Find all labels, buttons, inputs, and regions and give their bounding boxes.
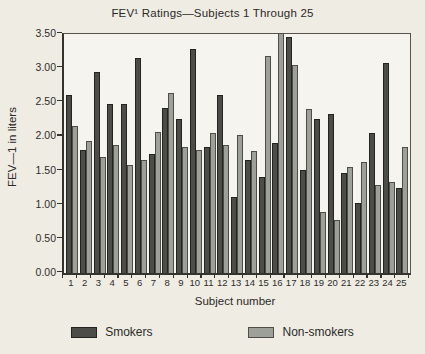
nonsmoker-bar-9 xyxy=(182,147,188,273)
x-axis-title: Subject number xyxy=(62,295,408,307)
y-tick-mark xyxy=(57,169,62,170)
y-tick-label-1.50: 1.50 xyxy=(20,164,56,176)
nonsmoker-bar-22 xyxy=(361,162,367,273)
nonsmokers-swatch-icon xyxy=(248,327,274,338)
x-label-subject-14: 14 xyxy=(243,277,257,288)
x-label-subject-9: 9 xyxy=(174,277,188,288)
x-label-subject-16: 16 xyxy=(270,277,284,288)
nonsmoker-bar-4 xyxy=(113,145,119,273)
nonsmoker-bar-25 xyxy=(402,147,408,273)
legend-entry-smokers: Smokers xyxy=(71,325,152,339)
nonsmoker-bar-16 xyxy=(278,33,284,273)
bar-pair-subject-17 xyxy=(286,37,300,273)
bar-pair-subject-10 xyxy=(190,49,204,273)
x-label-subject-22: 22 xyxy=(353,277,367,288)
legend-entry-nonsmokers: Non-smokers xyxy=(248,325,353,339)
y-tick-mark xyxy=(57,100,62,101)
bar-pair-subject-23 xyxy=(369,133,383,273)
bar-pair-subject-11 xyxy=(204,133,218,273)
nonsmoker-bar-19 xyxy=(320,212,326,273)
bars-container xyxy=(64,34,410,273)
x-axis-labels: 1234567891011121314151617181920212223242… xyxy=(62,277,408,288)
bar-pair-subject-20 xyxy=(328,114,342,273)
bar-pair-subject-16 xyxy=(272,33,286,273)
nonsmoker-bar-20 xyxy=(334,220,340,273)
x-label-subject-12: 12 xyxy=(215,277,229,288)
nonsmoker-bar-24 xyxy=(389,182,395,273)
y-tick-mark xyxy=(57,237,62,238)
nonsmoker-bar-17 xyxy=(292,65,298,273)
bar-pair-subject-2 xyxy=(80,141,94,273)
x-label-subject-21: 21 xyxy=(339,277,353,288)
bar-pair-subject-12 xyxy=(217,95,231,273)
y-tick-mark xyxy=(57,203,62,204)
x-label-subject-23: 23 xyxy=(367,277,381,288)
y-tick-mark xyxy=(57,32,62,33)
x-label-subject-10: 10 xyxy=(188,277,202,288)
nonsmoker-bar-15 xyxy=(265,56,271,273)
nonsmoker-bar-18 xyxy=(306,109,312,273)
x-tick-mark xyxy=(408,274,409,278)
bar-pair-subject-24 xyxy=(383,63,397,273)
bar-pair-subject-19 xyxy=(314,119,328,273)
x-label-subject-8: 8 xyxy=(160,277,174,288)
x-label-subject-13: 13 xyxy=(229,277,243,288)
smokers-legend-label: Smokers xyxy=(105,325,152,339)
nonsmoker-bar-3 xyxy=(100,157,106,273)
x-label-subject-7: 7 xyxy=(147,277,161,288)
x-label-subject-6: 6 xyxy=(133,277,147,288)
y-tick-label-2.00: 2.00 xyxy=(20,129,56,141)
nonsmoker-bar-23 xyxy=(375,185,381,273)
nonsmoker-bar-6 xyxy=(141,160,147,273)
x-label-subject-11: 11 xyxy=(202,277,216,288)
y-tick-label-1.00: 1.00 xyxy=(20,198,56,210)
x-label-subject-17: 17 xyxy=(284,277,298,288)
bar-pair-subject-21 xyxy=(341,167,355,273)
bar-pair-subject-7 xyxy=(149,132,163,273)
nonsmoker-bar-8 xyxy=(168,93,174,273)
x-label-subject-2: 2 xyxy=(78,277,92,288)
y-tick-mark xyxy=(57,66,62,67)
x-label-subject-25: 25 xyxy=(394,277,408,288)
bar-pair-subject-25 xyxy=(396,147,410,273)
x-label-subject-1: 1 xyxy=(64,277,78,288)
y-tick-mark xyxy=(57,271,62,272)
plot-area xyxy=(62,33,411,275)
y-tick-label-0.00: 0.00 xyxy=(20,266,56,278)
nonsmoker-bar-2 xyxy=(86,141,92,273)
y-tick-label-2.50: 2.50 xyxy=(20,95,56,107)
nonsmoker-bar-7 xyxy=(155,132,161,273)
nonsmoker-bar-10 xyxy=(196,150,202,273)
nonsmokers-legend-label: Non-smokers xyxy=(282,325,353,339)
bar-pair-subject-13 xyxy=(231,135,245,273)
bar-pair-subject-8 xyxy=(162,93,176,273)
nonsmoker-bar-13 xyxy=(237,135,243,273)
x-label-subject-4: 4 xyxy=(105,277,119,288)
nonsmoker-bar-21 xyxy=(347,167,353,273)
x-label-subject-15: 15 xyxy=(257,277,271,288)
x-label-subject-3: 3 xyxy=(92,277,106,288)
bar-pair-subject-22 xyxy=(355,162,369,273)
bar-pair-subject-18 xyxy=(300,109,314,273)
y-tick-label-3.00: 3.00 xyxy=(20,61,56,73)
x-label-subject-18: 18 xyxy=(298,277,312,288)
x-label-subject-20: 20 xyxy=(326,277,340,288)
bar-pair-subject-9 xyxy=(176,119,190,273)
x-label-subject-5: 5 xyxy=(119,277,133,288)
y-tick-label-3.50: 3.50 xyxy=(20,27,56,39)
nonsmoker-bar-12 xyxy=(223,145,229,273)
bar-pair-subject-3 xyxy=(94,72,108,273)
bar-pair-subject-1 xyxy=(66,95,80,273)
bar-pair-subject-6 xyxy=(135,58,149,273)
legend: Smokers Non-smokers xyxy=(0,325,425,339)
y-tick-mark xyxy=(57,134,62,135)
y-tick-label-0.50: 0.50 xyxy=(20,232,56,244)
nonsmoker-bar-5 xyxy=(127,165,133,273)
x-label-subject-24: 24 xyxy=(381,277,395,288)
smokers-swatch-icon xyxy=(71,327,97,338)
nonsmoker-bar-1 xyxy=(72,126,78,273)
x-label-subject-19: 19 xyxy=(312,277,326,288)
bar-pair-subject-5 xyxy=(121,104,135,273)
chart-title: FEV¹ Ratings—Subjects 1 Through 25 xyxy=(0,7,425,19)
bar-pair-subject-14 xyxy=(245,151,259,273)
